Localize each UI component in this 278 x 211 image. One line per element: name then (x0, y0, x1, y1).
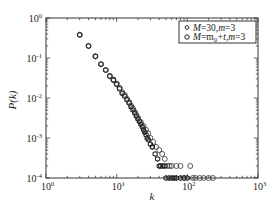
chart: 10010110210310010-110-210-310-4 k P(k) M… (0, 0, 278, 211)
data-points (77, 32, 215, 180)
y-tick-label: 10-3 (27, 132, 42, 144)
x-tick-label: 100 (41, 180, 54, 192)
data-point (162, 156, 167, 161)
legend-entry-2: M=m0+t,m=3 (192, 32, 246, 43)
y-axis-label: P(k) (6, 90, 19, 110)
x-tick-label: 101 (112, 180, 125, 192)
legend: M=30,m=3 M=m0+t,m=3 (179, 21, 256, 43)
y-tick-label: 100 (29, 12, 42, 24)
data-point (160, 151, 165, 156)
y-tick-label: 10-1 (27, 52, 42, 64)
data-point (153, 152, 157, 157)
x-tick-label: 102 (182, 180, 195, 192)
y-tick-label: 10-2 (27, 92, 42, 104)
x-axis-label: k (150, 190, 156, 202)
data-point (188, 163, 193, 168)
data-point (156, 157, 160, 162)
x-tick-label: 103 (253, 180, 266, 192)
